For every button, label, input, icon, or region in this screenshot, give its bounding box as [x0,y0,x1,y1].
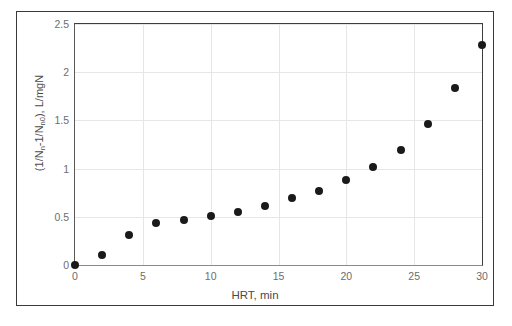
y-axis-tick-label: 2.5 [54,18,69,30]
x-axis-tick-label: 10 [205,270,217,282]
data-point [125,231,133,239]
data-point [234,208,242,216]
x-axis-tick-label: 5 [140,270,146,282]
plot-area: 00.511.522.5 051015202530 [74,23,483,266]
gridline-vertical [143,24,144,265]
y-axis-title-sub2: n0 [38,117,47,125]
y-axis-tick-label: 1.5 [54,114,69,126]
data-point [152,219,160,227]
y-axis-tick-label: 2 [63,66,69,78]
x-axis-tick-label: 15 [273,270,285,282]
data-point [288,194,296,202]
x-axis-title: HRT, min [17,289,493,301]
gridline-vertical [346,24,347,265]
figure-frame: (1/Nn-1/Nn0), L/mgN HRT, min 00.511.522.… [16,11,494,306]
data-point [342,176,350,184]
x-axis-tick-label: 30 [476,270,488,282]
gridline-vertical [279,24,280,265]
y-axis-tick-label: 1 [63,163,69,175]
gridline-vertical [211,24,212,265]
y-axis-title: (1/Nn-1/Nn0), L/mgN [33,23,45,223]
data-point [451,84,459,92]
y-axis-tick-label: 0 [63,259,69,271]
gridline-vertical [414,24,415,265]
data-point [71,261,79,269]
y-axis-title-prefix: (1/N [33,150,45,171]
data-point [424,120,432,128]
x-axis-tick-label: 25 [408,270,420,282]
data-point [261,202,269,210]
y-axis-title-middle: -1/N [33,125,45,146]
data-point [207,212,215,220]
y-axis-title-suffix: ), L/mgN [33,75,45,117]
data-point [478,41,486,49]
x-axis-tick-label: 0 [72,270,78,282]
data-point [98,251,106,259]
x-axis-tick-label: 20 [340,270,352,282]
data-point [315,187,323,195]
data-point [180,216,188,224]
y-axis-title-sub1: n [38,146,47,150]
data-point [397,146,405,154]
y-axis-tick-label: 0.5 [54,211,69,223]
